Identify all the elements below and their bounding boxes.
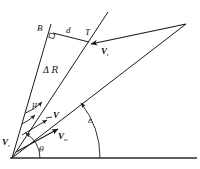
right-angle-marker	[49, 33, 55, 39]
label-distance-d: d	[66, 26, 71, 35]
vector-diagram-svg	[0, 0, 200, 169]
label-angle-mu: μ	[32, 101, 37, 109]
label-vector-vt: Vt	[101, 47, 108, 56]
figure-canvas: B d T Vt ΔR μ V Vm Vr ε θ	[0, 0, 200, 169]
vector-v-leader	[46, 117, 52, 118]
label-r-symbol: R	[52, 65, 59, 75]
vector-vt-line	[91, 24, 186, 44]
label-delta-r: ΔR	[43, 66, 58, 75]
segment-b-t	[53, 33, 89, 42]
label-angle-theta: θ	[39, 146, 44, 154]
vector-vm-line	[16, 129, 58, 152]
label-vector-vm: Vm	[58, 132, 68, 141]
label-vector-v: V	[53, 111, 59, 120]
label-delta-symbol: Δ	[43, 65, 50, 75]
label-angle-epsilon: ε	[88, 117, 92, 125]
label-vector-vr: Vr	[2, 138, 10, 147]
label-vector-vm-subscript: m	[64, 137, 68, 142]
label-point-b: B	[37, 24, 43, 33]
label-point-t: T	[85, 28, 90, 37]
label-vector-vr-subscript: r	[8, 143, 10, 148]
label-vector-v-base: V	[53, 110, 59, 120]
angle-epsilon-arc	[81, 103, 100, 158]
ray-to-apex	[12, 24, 186, 158]
